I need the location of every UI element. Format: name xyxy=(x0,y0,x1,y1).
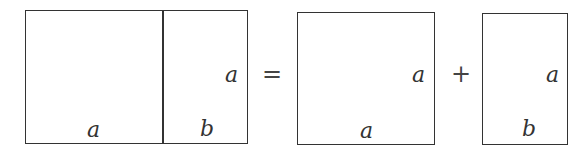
combined-rectangle xyxy=(25,10,248,144)
label-a-side: a xyxy=(225,64,238,86)
label-b-bottom-right: b xyxy=(200,118,214,140)
equals-sign: = xyxy=(262,62,282,86)
label-a-bottom-left: a xyxy=(87,119,100,141)
square-label-side: a xyxy=(412,64,425,86)
rectangle-divider xyxy=(162,10,164,144)
rect-label-side: a xyxy=(546,64,559,86)
plus-sign: + xyxy=(451,62,471,86)
rect-label-bottom: b xyxy=(522,118,536,140)
square-label-bottom: a xyxy=(360,120,373,142)
